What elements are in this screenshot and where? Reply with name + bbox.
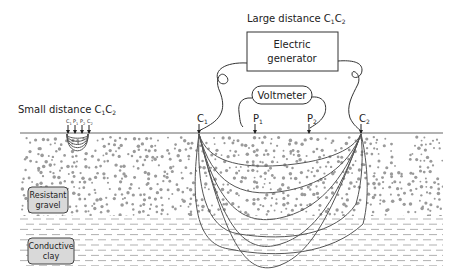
gravel-pebble: [84, 165, 87, 168]
gravel-pebble: [258, 137, 260, 139]
gravel-pebble: [176, 183, 179, 186]
gravel-pebble: [370, 203, 372, 205]
gravel-pebble: [307, 186, 310, 189]
gravel-pebble: [267, 170, 269, 172]
gravel-pebble: [52, 156, 54, 158]
gravel-pebble: [23, 215, 25, 217]
conductive-clay-label: Conductive clay: [28, 238, 74, 264]
gravel-pebble: [295, 198, 297, 200]
gravel-pebble: [28, 177, 31, 180]
small-field-line: [67, 134, 88, 138]
small-electrode-p2: P2: [80, 118, 85, 134]
gravel-pebble: [204, 171, 207, 174]
gravel-pebble: [213, 214, 215, 216]
gravel-pebble: [144, 159, 147, 162]
gravel-pebble: [162, 180, 164, 182]
gravel-pebble: [348, 149, 351, 152]
gravel-pebble: [289, 139, 293, 143]
gravel-pebble: [254, 177, 256, 179]
gravel-pebble: [407, 211, 410, 214]
gravel-pebble: [135, 217, 137, 219]
gravel-pebble: [445, 145, 447, 147]
gravel-pebble: [103, 145, 106, 148]
gravel-pebble: [390, 150, 392, 152]
gravel-pebble: [379, 194, 381, 196]
gravel-pebble: [290, 215, 293, 218]
electrode-label: C1: [197, 113, 208, 125]
gravel-pebble: [36, 215, 39, 218]
gravel-pebble: [166, 173, 168, 175]
gravel-pebble: [143, 198, 146, 201]
gravel-pebble: [246, 152, 250, 156]
small-distance-title: Small distance C1C2: [18, 104, 116, 116]
voltmeter-label: Voltmeter: [258, 90, 308, 101]
gravel-pebble: [76, 161, 78, 163]
gravel-pebble: [394, 165, 396, 167]
gravel-pebble: [24, 197, 27, 200]
gravel-pebble: [424, 148, 427, 151]
gravel-pebble: [181, 172, 183, 174]
gravel-pebble: [126, 191, 129, 194]
gravel-pebble: [330, 166, 332, 168]
electrode-label: P1: [253, 113, 263, 125]
gravel-pebble: [423, 136, 425, 138]
gravel-pebble: [237, 139, 240, 142]
gravel-pebble: [114, 194, 116, 196]
gravel-pebble: [300, 171, 303, 174]
gravel-pebble: [229, 150, 231, 152]
gravel-pebble: [393, 180, 396, 183]
gravel-pebble: [260, 175, 263, 178]
electrode-p1: P1: [253, 113, 263, 134]
gravel-pebble: [358, 168, 361, 171]
gravel-pebble: [132, 208, 134, 210]
gravel-pebble: [374, 187, 377, 190]
gravel-pebble: [142, 164, 145, 167]
gravel-pebble: [211, 205, 213, 207]
gravel-pebble: [183, 139, 186, 142]
gravel-pebble: [154, 174, 157, 177]
gravel-pebble: [137, 167, 140, 170]
gravel-pebble: [438, 142, 440, 144]
gravel-pebble: [160, 197, 162, 199]
gravel-pebble: [93, 203, 95, 205]
gravel-pebble: [259, 204, 261, 206]
gravel-pebble: [334, 171, 336, 173]
gravel-pebble: [226, 155, 229, 158]
gravel-pebble: [409, 189, 412, 192]
gravel-pebble: [438, 198, 441, 201]
gravel-pebble: [264, 172, 267, 175]
gravel-pebble: [235, 171, 238, 174]
gravel-pebble: [156, 156, 158, 158]
gravel-pebble: [420, 144, 423, 147]
gravel-pebble: [157, 140, 159, 142]
gravel-pebble: [225, 169, 228, 172]
gravel-pebble: [430, 186, 433, 189]
gravel-pebble: [75, 165, 77, 167]
gravel-pebble: [445, 199, 447, 201]
gravel-pebble: [334, 149, 337, 152]
gravel-pebble: [257, 208, 260, 211]
gravel-pebble: [294, 204, 297, 207]
gravel-pebble: [264, 178, 266, 180]
gravel-pebble: [127, 153, 129, 155]
gravel-pebble: [259, 161, 261, 163]
gravel-pebble: [29, 142, 31, 144]
gravel-pebble: [337, 156, 340, 159]
gravel-pebble: [246, 199, 249, 202]
gravel-pebble: [299, 203, 302, 206]
gravel-pebble: [412, 173, 414, 175]
gravel-pebble: [387, 208, 390, 211]
gravel-pebble: [262, 161, 264, 163]
gravel-pebble: [324, 187, 326, 189]
gravel-pebble: [60, 143, 63, 146]
gravel-pebble: [31, 181, 33, 183]
gravel-pebble: [114, 175, 117, 178]
gravel-pebble: [150, 137, 152, 139]
gravel-pebble: [185, 148, 188, 151]
gravel-pebble: [131, 203, 134, 206]
small-electrode-c1: C1: [66, 118, 72, 134]
gravel-pebble: [306, 155, 308, 157]
gravel-pebble: [263, 153, 266, 156]
gravel-pebble: [201, 205, 205, 209]
gravel-pebble: [415, 136, 418, 139]
